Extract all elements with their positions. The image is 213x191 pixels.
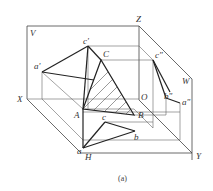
label-point-a-prime: a': [34, 62, 40, 71]
label-point-B: B: [138, 111, 144, 120]
label-point-a-double-prime: a": [182, 98, 190, 107]
label-origin-o: O: [141, 93, 148, 102]
label-point-a: a: [77, 147, 82, 156]
label-plane-h: H: [85, 153, 92, 162]
label-axis-x: X: [17, 95, 23, 104]
label-point-C: C: [103, 50, 109, 59]
figure-caption: (a): [118, 175, 127, 183]
label-axis-y: Y: [196, 152, 201, 161]
label-point-b: b: [134, 133, 139, 142]
label-point-A: A: [74, 111, 80, 120]
label-point-c-double-prime: c": [155, 51, 163, 60]
label-point-c-prime: c': [83, 37, 89, 46]
label-plane-v: V: [30, 29, 36, 38]
top-projection: [83, 109, 135, 148]
label-point-c: c: [102, 113, 106, 122]
triangle-abc: [83, 60, 134, 115]
projection-frames: [27, 46, 180, 140]
label-point-b-double-prime: b": [164, 92, 172, 101]
h-plane: [27, 99, 192, 153]
label-axis-z: Z: [136, 15, 141, 24]
label-plane-w: W: [182, 77, 190, 86]
